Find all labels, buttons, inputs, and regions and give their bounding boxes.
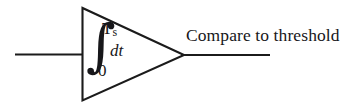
integral-upper-limit-base: T <box>102 19 112 38</box>
integral-lower-limit: 0 <box>98 62 107 79</box>
output-wire-label: Compare to threshold <box>186 27 340 45</box>
figure-canvas: ∫ Ts 0 dt Compare to threshold <box>0 0 358 106</box>
diagram-vector-layer <box>0 0 358 106</box>
integral-upper-limit-subscript: s <box>112 25 116 39</box>
integral-upper-limit: Ts <box>102 20 117 38</box>
integral-differential: dt <box>110 42 123 59</box>
